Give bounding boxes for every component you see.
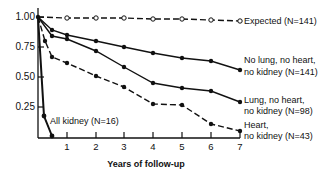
y-tick-0.50: 0.50 <box>16 71 36 82</box>
label-expected: Expected (N=141) <box>244 16 317 26</box>
label-lung-1: Lung, no heart, <box>244 95 305 105</box>
x-tick-1: 1 <box>64 141 69 152</box>
label-heart-2: no kidney (N=43) <box>244 131 313 141</box>
y-tick-1.00: 1.00 <box>16 11 36 22</box>
label-no-lung-1: No lung, no heart, <box>244 55 316 65</box>
x-tick-5: 5 <box>179 141 184 152</box>
series-expected <box>38 16 242 23</box>
x-tick-3: 3 <box>121 141 126 152</box>
label-heart-1: Heart, <box>244 120 269 130</box>
x-ticks <box>67 132 240 138</box>
x-axis-label: Years of follow-up <box>107 159 185 169</box>
y-tick-0.25: 0.25 <box>16 101 36 112</box>
survival-chart: 1.00 0.75 0.50 0.25 1 2 3 4 5 6 7 Years … <box>0 0 335 173</box>
y-tick-0.75: 0.75 <box>16 41 36 52</box>
x-tick-6: 6 <box>208 141 213 152</box>
x-tick-4: 4 <box>150 141 155 152</box>
y-tick-labels: 1.00 0.75 0.50 0.25 <box>16 11 36 112</box>
x-tick-labels: 1 2 3 4 5 6 7 <box>64 141 242 152</box>
x-tick-2: 2 <box>93 141 98 152</box>
label-no-lung-2: no kidney (N=141) <box>244 67 318 77</box>
series-labels: Expected (N=141) No lung, no heart, no k… <box>50 16 318 141</box>
label-lung-2: no kidney (N=98) <box>244 106 313 116</box>
x-tick-7: 7 <box>237 141 242 152</box>
label-all-kidney: All kidney (N=16) <box>50 116 119 126</box>
